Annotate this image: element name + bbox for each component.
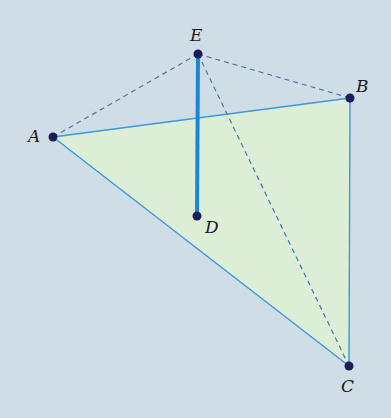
point-d (193, 212, 202, 221)
label-b: B (355, 76, 369, 96)
point-b (346, 94, 355, 103)
label-c: C (341, 376, 354, 396)
point-c (345, 362, 354, 371)
edge-ed (197, 54, 198, 216)
label-d: D (204, 217, 219, 237)
geometry-figure: A B C D E (0, 0, 391, 418)
label-e: E (189, 25, 203, 45)
point-a (49, 133, 58, 142)
label-a: A (26, 126, 40, 146)
point-e (194, 50, 203, 59)
